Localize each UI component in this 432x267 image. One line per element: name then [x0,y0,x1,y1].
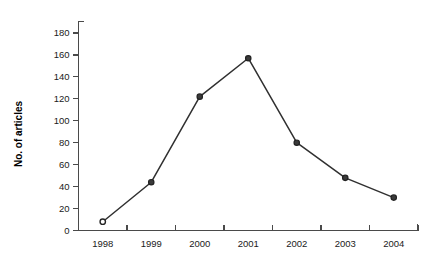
data-point [197,94,202,99]
x-tick-label: 2003 [335,238,356,249]
data-point [246,56,251,61]
data-point [100,219,105,224]
data-point [343,175,348,180]
data-point [391,195,396,200]
y-tick-label: 100 [54,115,70,126]
x-tick-label: 2004 [383,238,404,249]
x-tick-label: 2000 [189,238,210,249]
x-tick-label: 1998 [92,238,113,249]
x-tick-label: 2001 [238,238,259,249]
y-tick-label: 140 [54,71,70,82]
y-tick-label: 160 [54,49,70,60]
y-tick-label: 40 [59,181,70,192]
data-point [294,140,299,145]
x-tick-label: 1999 [141,238,162,249]
y-tick-label: 20 [59,203,70,214]
y-axis-title: No. of articles [13,101,24,168]
data-point [149,180,154,185]
y-tick-label: 120 [54,93,70,104]
y-tick-label: 180 [54,27,70,38]
line-chart-figure: 020406080100120140160180 199819992000200… [0,0,432,267]
x-tick-label: 2002 [286,238,307,249]
y-tick-label: 80 [59,137,70,148]
y-tick-label: 0 [64,225,69,236]
chart-canvas: 020406080100120140160180 199819992000200… [0,0,432,267]
y-tick-label: 60 [59,159,70,170]
